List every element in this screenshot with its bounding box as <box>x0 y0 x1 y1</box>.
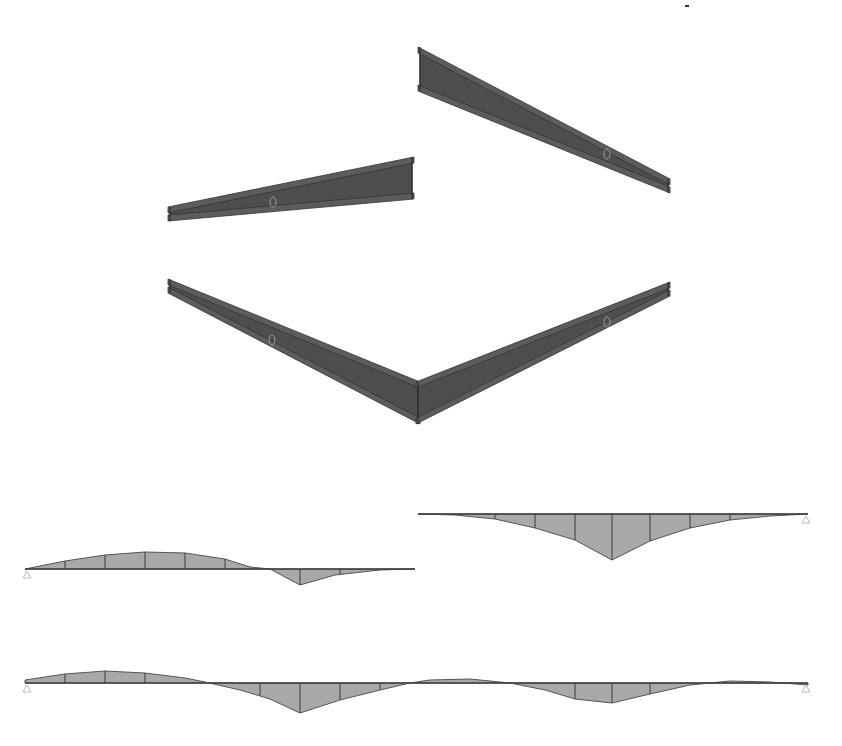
beam-models <box>168 47 670 424</box>
beam-bottom-flange <box>418 85 670 193</box>
misc-marks <box>685 5 689 7</box>
beam-bottom-flange <box>168 287 420 424</box>
pin-support-icon <box>23 685 31 692</box>
moment-area <box>25 671 808 713</box>
beam-middle-left <box>168 157 414 221</box>
beam-bottom-flange <box>416 290 670 424</box>
beam-upper-right <box>418 47 670 193</box>
beam-top-flange <box>416 282 670 388</box>
roller-support-icon <box>802 685 810 692</box>
beam-v-frame-left <box>168 279 420 424</box>
beam-v-frame-right <box>416 282 670 424</box>
beam-top-flange <box>418 47 670 185</box>
moment-diagrams <box>23 514 810 713</box>
stray-dot <box>685 5 689 7</box>
roller-support-icon <box>802 516 810 523</box>
beam-top-flange <box>168 279 420 388</box>
diagram-continuous-beam <box>23 671 810 713</box>
pin-support-icon <box>23 571 31 578</box>
diagram-right-span <box>418 514 810 560</box>
diagram-left-span <box>23 552 415 585</box>
structural-figure <box>0 0 842 746</box>
moment-area <box>418 514 808 560</box>
